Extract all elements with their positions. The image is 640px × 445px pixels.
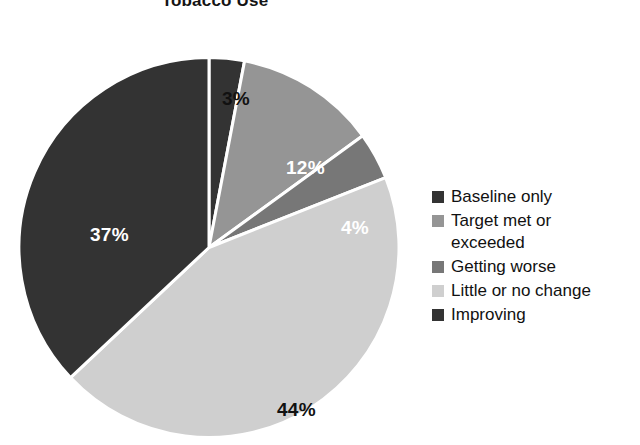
legend-swatch-icon-baseline-only xyxy=(432,191,444,203)
slice-label-little-or-no-change: 44% xyxy=(277,399,316,421)
legend-label-little-or-no-change: Little or no change xyxy=(451,280,591,302)
legend-item-baseline-only: Baseline only xyxy=(432,186,632,208)
legend-item-improving: Improving xyxy=(432,304,632,326)
legend-label-getting-worse: Getting worse xyxy=(451,256,556,278)
legend-label-baseline-only: Baseline only xyxy=(451,186,552,208)
pie-slice-group xyxy=(19,58,399,438)
legend-item-getting-worse: Getting worse xyxy=(432,256,632,278)
legend-label-target-met-or-exceeded: Target met or exceeded xyxy=(451,210,551,254)
legend-label-improving: Improving xyxy=(451,304,526,326)
legend-swatch-icon-target-met-or-exceeded xyxy=(432,215,444,227)
pie-graphic: 3% 12% 4% 44% 37% xyxy=(19,57,399,438)
pie-chart: Tobacco Use 3% 12% 4% 44% 37% Baseline o… xyxy=(0,0,640,445)
chart-legend: Baseline only Target met or exceeded Get… xyxy=(432,186,632,328)
slice-label-getting-worse: 4% xyxy=(341,217,369,239)
legend-swatch-icon-getting-worse xyxy=(432,261,444,273)
slice-label-improving: 37% xyxy=(90,224,129,246)
legend-swatch-icon-improving xyxy=(432,309,444,321)
pie-svg xyxy=(19,57,399,438)
slice-label-target-met-or-exceeded: 12% xyxy=(286,157,325,179)
slice-label-baseline-only: 3% xyxy=(222,88,250,110)
chart-title: Tobacco Use xyxy=(0,0,430,11)
legend-item-target-met-or-exceeded: Target met or exceeded xyxy=(432,210,632,254)
legend-item-little-or-no-change: Little or no change xyxy=(432,280,632,302)
legend-swatch-icon-little-or-no-change xyxy=(432,285,444,297)
